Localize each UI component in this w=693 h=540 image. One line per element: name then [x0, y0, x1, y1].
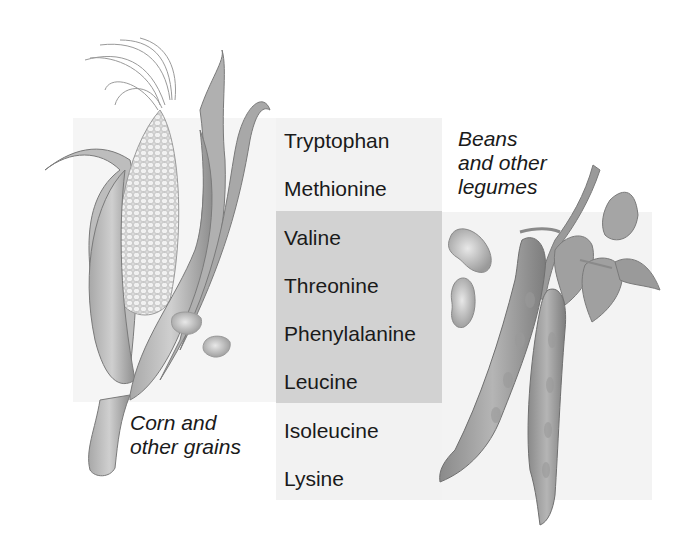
amino-acid-item: Tryptophan [284, 126, 416, 174]
corn-kernel-icon [172, 312, 231, 357]
bean-seed-icon [449, 229, 492, 328]
beans-caption-line: legumes [458, 175, 547, 199]
corn-caption: Corn and other grains [130, 411, 241, 459]
beans-caption-line: and other [458, 151, 547, 175]
beans-caption-line: Beans [458, 127, 547, 151]
corn-caption-line: Corn and [130, 411, 241, 435]
amino-acid-item: Threonine [284, 271, 416, 319]
amino-acid-item: Leucine [284, 367, 416, 415]
amino-acid-item: Methionine [284, 174, 416, 222]
corn-caption-line: other grains [130, 435, 241, 459]
amino-acid-item: Lysine [284, 464, 416, 512]
beans-caption: Beans and other legumes [458, 127, 547, 199]
amino-acid-item: Isoleucine [284, 416, 416, 464]
amino-acid-list: Tryptophan Methionine Valine Threonine P… [284, 126, 416, 512]
amino-acid-item: Valine [284, 223, 416, 271]
amino-acid-item: Phenylalanine [284, 319, 416, 367]
bean-pod-plant-icon [440, 165, 660, 525]
